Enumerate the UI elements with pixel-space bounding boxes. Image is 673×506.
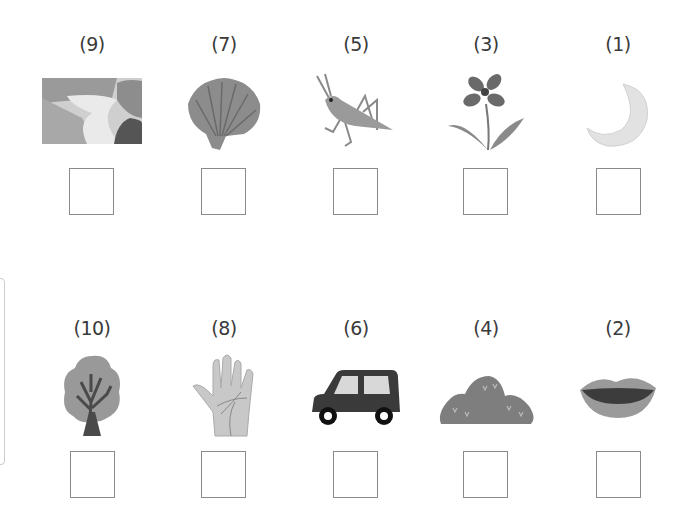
flower-icon <box>441 56 531 146</box>
answer-box-6[interactable] <box>333 451 378 498</box>
answer-box-10[interactable] <box>70 451 115 498</box>
car-icon <box>311 340 401 430</box>
question-4: (4) <box>441 316 531 430</box>
river-icon <box>47 56 137 146</box>
question-number: (9) <box>47 32 137 56</box>
question-5: (5) <box>311 32 401 146</box>
question-3: (3) <box>441 32 531 146</box>
tree-icon <box>47 340 137 430</box>
question-number: (5) <box>311 32 401 56</box>
question-2: (2) <box>573 316 663 430</box>
mouth-icon <box>573 340 663 430</box>
page-edge-tab <box>0 278 5 465</box>
answer-box-3[interactable] <box>463 168 508 215</box>
question-number: (4) <box>441 316 531 340</box>
question-10: (10) <box>47 316 137 430</box>
answer-box-9[interactable] <box>69 168 114 215</box>
question-7: (7) <box>179 32 269 146</box>
seashell-icon <box>179 56 269 146</box>
hand-icon <box>179 340 269 430</box>
question-1: (1) <box>573 32 663 146</box>
question-8: (8) <box>179 316 269 430</box>
question-number: (7) <box>179 32 269 56</box>
crescent-moon-icon <box>573 56 663 146</box>
answer-box-4[interactable] <box>463 451 508 498</box>
question-number: (10) <box>47 316 137 340</box>
mountain-icon <box>441 340 531 430</box>
question-9: (9) <box>47 32 137 146</box>
question-6: (6) <box>311 316 401 430</box>
answer-box-7[interactable] <box>201 168 246 215</box>
answer-box-8[interactable] <box>201 451 246 498</box>
question-number: (8) <box>179 316 269 340</box>
answer-box-5[interactable] <box>333 168 378 215</box>
grasshopper-icon <box>311 56 401 146</box>
question-number: (2) <box>573 316 663 340</box>
question-number: (3) <box>441 32 531 56</box>
question-number: (1) <box>573 32 663 56</box>
question-number: (6) <box>311 316 401 340</box>
answer-box-1[interactable] <box>596 168 641 215</box>
answer-box-2[interactable] <box>596 451 641 498</box>
